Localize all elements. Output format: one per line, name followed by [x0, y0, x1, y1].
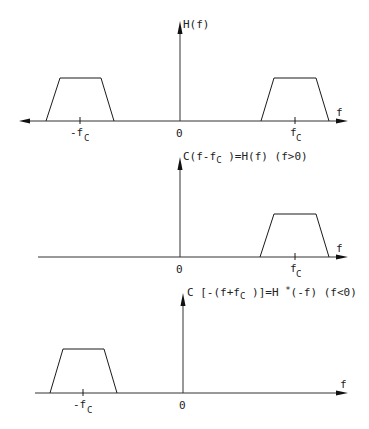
- y-axis-label: C(f-fC )=H(f) (f>0): [183, 150, 308, 165]
- spectrum-pos: [260, 214, 329, 257]
- y-axis-label: C [-(f+fC )]=H *(-f) (f<0): [187, 285, 357, 301]
- origin-label: 0: [176, 263, 183, 276]
- tick-label-pos-fc-sub: C: [296, 269, 301, 279]
- up-arrow-icon: [181, 293, 186, 306]
- spectrum-pos: [261, 78, 329, 121]
- left-arrow-icon: [19, 119, 30, 124]
- spectrum-diagram: H(f) f 0 -f C f C C(f-fC )=H(f) (f>0) f …: [0, 0, 369, 429]
- origin-label: 0: [176, 127, 183, 140]
- x-axis-label: f: [336, 242, 343, 255]
- x-axis-label: f: [340, 378, 347, 391]
- panel-bottom: C [-(f+fC )]=H *(-f) (f<0) f 0 -f C: [35, 285, 357, 415]
- tick-label-neg-fc-sub: C: [84, 133, 89, 143]
- spectrum-neg: [50, 349, 117, 393]
- tick-label-neg-fc: -f: [73, 398, 86, 411]
- origin-label: 0: [179, 399, 186, 412]
- right-arrow-icon: [336, 255, 348, 260]
- y-axis-label: H(f): [183, 18, 210, 31]
- x-axis-label: f: [336, 106, 343, 119]
- panel-top: H(f) f 0 -f C f C: [19, 18, 348, 143]
- spectrum-neg: [46, 78, 114, 121]
- tick-label-pos-fc-sub: C: [296, 133, 301, 143]
- panel-middle: C(f-fC )=H(f) (f>0) f 0 f C: [38, 150, 348, 279]
- right-arrow-icon: [336, 119, 348, 124]
- up-arrow-icon: [178, 21, 183, 34]
- tick-label-neg-fc-sub: C: [87, 405, 92, 415]
- up-arrow-icon: [178, 157, 183, 170]
- tick-label-neg-fc: -f: [70, 126, 83, 139]
- right-arrow-icon: [336, 391, 348, 396]
